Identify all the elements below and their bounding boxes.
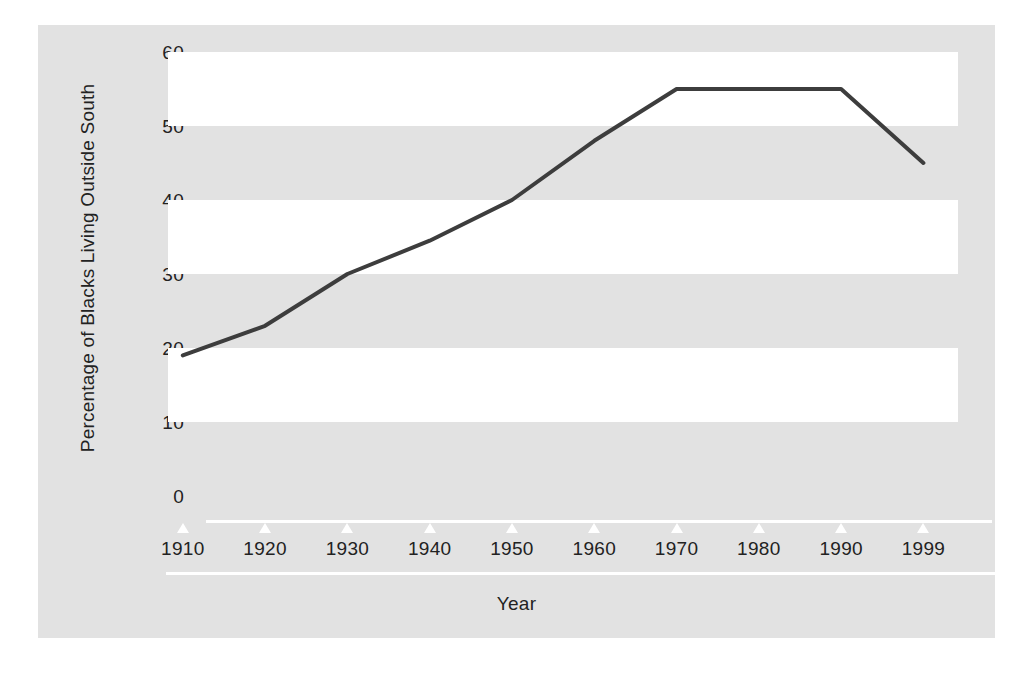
x-tick-mark-1940 <box>424 523 436 533</box>
x-tick-mark-1990 <box>835 523 847 533</box>
y-axis-title: Percentage of Blacks Living Outside Sout… <box>77 8 99 528</box>
series-line-percentage-blacks-outside-south <box>183 89 924 355</box>
x-tick-label-1999: 1999 <box>863 538 983 560</box>
x-tick-mark-1960 <box>588 523 600 533</box>
x-tick-mark-1920 <box>259 523 271 533</box>
x-tick-mark-1950 <box>506 523 518 533</box>
x-tick-mark-1980 <box>753 523 765 533</box>
x-tick-mark-1910 <box>177 523 189 533</box>
data-line-series <box>168 52 958 496</box>
x-tick-mark-1930 <box>341 523 353 533</box>
x-axis-lower-rule <box>166 572 996 575</box>
x-axis-title: Year <box>38 593 995 615</box>
x-tick-mark-1999 <box>917 523 929 533</box>
x-tick-mark-1970 <box>671 523 683 533</box>
plot-area <box>168 52 958 496</box>
figure-panel: Percentage of Blacks Living Outside Sout… <box>38 25 995 638</box>
